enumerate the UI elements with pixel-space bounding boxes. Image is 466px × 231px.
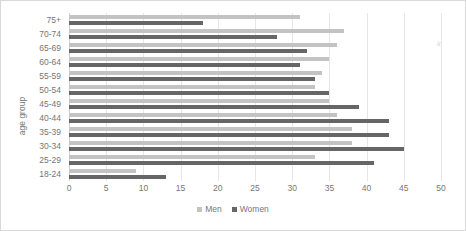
x-axis-tick-label: 45 xyxy=(399,183,408,193)
bar-row xyxy=(69,125,441,139)
bar-row xyxy=(69,139,441,153)
bar-row xyxy=(69,83,441,97)
legend-item-women[interactable]: Women xyxy=(232,204,269,214)
x-axis-tick-label: 30 xyxy=(287,183,296,193)
bar-row xyxy=(69,97,441,111)
bar-women xyxy=(69,49,307,53)
bar-row xyxy=(69,27,441,41)
y-axis-tick-label: 50-54 xyxy=(39,85,61,95)
bar-men xyxy=(69,141,352,145)
bar-women xyxy=(69,147,404,151)
bar-men xyxy=(69,99,329,103)
y-axis-tick-label: 40-44 xyxy=(39,113,61,123)
bar-men xyxy=(69,85,315,89)
bar-row xyxy=(69,153,441,167)
y-axis-tick-label: 75+ xyxy=(47,15,61,25)
x-axis-tick-label: 20 xyxy=(213,183,222,193)
bar-men xyxy=(69,15,300,19)
chart-legend: MenWomen xyxy=(1,204,465,214)
bar-men xyxy=(69,57,329,61)
bar-women xyxy=(69,21,203,25)
x-axis-tick-label: 0 xyxy=(67,183,72,193)
bar-men xyxy=(69,71,322,75)
bar-rows xyxy=(69,13,441,181)
legend-swatch-icon xyxy=(232,207,237,212)
bar-row xyxy=(69,13,441,27)
y-axis-tick-labels: 75+70-7465-6960-6455-5950-5445-4940-4435… xyxy=(1,13,65,181)
bar-women xyxy=(69,175,166,179)
y-axis-tick-label: 25-29 xyxy=(39,155,61,165)
bar-women xyxy=(69,35,277,39)
bar-women xyxy=(69,63,300,67)
bar-row xyxy=(69,69,441,83)
bar-men xyxy=(69,155,315,159)
x-axis-tick-label: 25 xyxy=(250,183,259,193)
bar-men xyxy=(69,113,337,117)
x-axis-tick-label: 10 xyxy=(139,183,148,193)
legend-item-men[interactable]: Men xyxy=(197,204,222,214)
x-axis-tick-label: 15 xyxy=(176,183,185,193)
plot-area: x xyxy=(69,13,441,181)
x-axis-tick-label: 35 xyxy=(325,183,334,193)
y-axis-tick-label: 18-24 xyxy=(39,169,61,179)
x-axis-tick-label: 5 xyxy=(104,183,109,193)
y-axis-tick-label: 65-69 xyxy=(39,43,61,53)
gridline xyxy=(441,13,442,181)
bar-women xyxy=(69,77,315,81)
bar-women xyxy=(69,161,374,165)
legend-label: Women xyxy=(240,204,269,214)
bar-women xyxy=(69,119,389,123)
bar-row xyxy=(69,41,441,55)
y-axis-tick-label: 30-34 xyxy=(39,141,61,151)
y-axis-tick-label: 60-64 xyxy=(39,57,61,67)
bar-men xyxy=(69,127,352,131)
bar-men xyxy=(69,169,136,173)
y-axis-tick-label: 70-74 xyxy=(39,29,61,39)
x-axis-tick-label: 40 xyxy=(362,183,371,193)
bar-men xyxy=(69,29,344,33)
bar-chart: age group 75+70-7465-6960-6455-5950-5445… xyxy=(0,0,466,231)
bar-women xyxy=(69,91,329,95)
bar-men xyxy=(69,43,337,47)
bar-women xyxy=(69,133,389,137)
y-axis-tick-label: 55-59 xyxy=(39,71,61,81)
legend-label: Men xyxy=(205,204,222,214)
bar-row xyxy=(69,167,441,181)
bar-women xyxy=(69,105,359,109)
bar-row xyxy=(69,55,441,69)
y-axis-tick-label: 45-49 xyxy=(39,99,61,109)
bar-row xyxy=(69,111,441,125)
legend-swatch-icon xyxy=(197,207,202,212)
x-axis-tick-label: 50 xyxy=(436,183,445,193)
y-axis-tick-label: 35-39 xyxy=(39,127,61,137)
x-axis-tick-labels: 05101520253035404550 xyxy=(69,183,441,197)
